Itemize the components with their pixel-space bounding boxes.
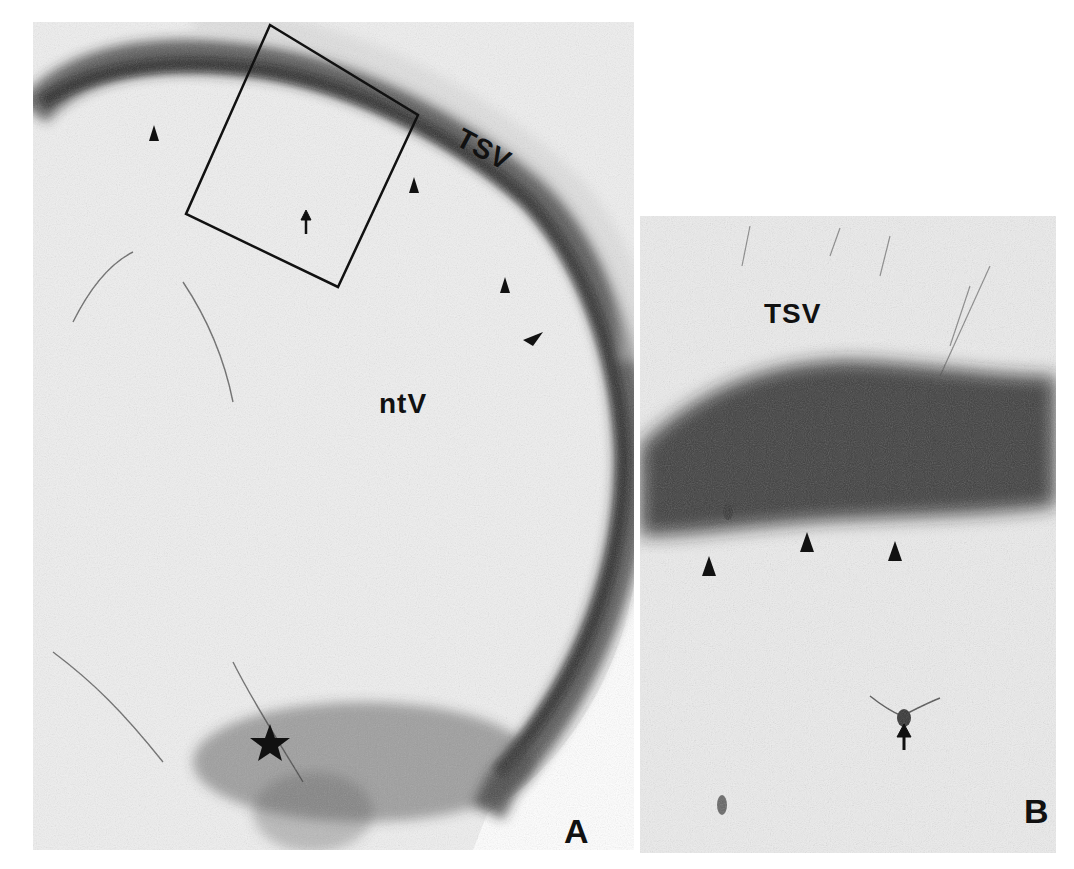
label-ntv: ntV: [379, 390, 427, 418]
panel-b-tissue-section: [640, 216, 1056, 853]
panel-b-micrograph: TSV B: [640, 216, 1056, 853]
panel-a-tissue-section: [33, 22, 634, 850]
panel-letter-a: A: [564, 814, 589, 848]
panel-a-micrograph: TSV ntV A: [33, 22, 634, 850]
panel-letter-b: B: [1024, 794, 1049, 828]
label-tsv-b: TSV: [764, 300, 821, 328]
